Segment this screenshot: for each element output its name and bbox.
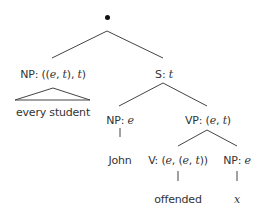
edge-s-np — [119, 83, 163, 106]
node-s: S: t — [155, 68, 173, 81]
node-np-object: NP: e — [223, 154, 251, 167]
node-v: V: (e, (e, t)) — [148, 154, 208, 167]
edge-root-s — [107, 31, 163, 58]
edge-s-vp — [163, 83, 207, 106]
leaf-x: x — [234, 193, 240, 206]
node-vp: VP: (e, t) — [185, 114, 231, 127]
node-np-quantifier: NP: ((e, t), t) — [20, 68, 86, 81]
leaf-john: John — [108, 154, 131, 167]
leaf-every-student: every student — [16, 106, 90, 119]
root-node-dot — [105, 15, 110, 20]
edge-root-np — [52, 31, 107, 58]
triangle-np — [15, 88, 90, 100]
edge-vp-np — [207, 130, 237, 146]
node-np-subject: NP: e — [106, 114, 134, 127]
leaf-offended: offended — [154, 193, 201, 206]
edge-vp-v — [178, 130, 207, 146]
